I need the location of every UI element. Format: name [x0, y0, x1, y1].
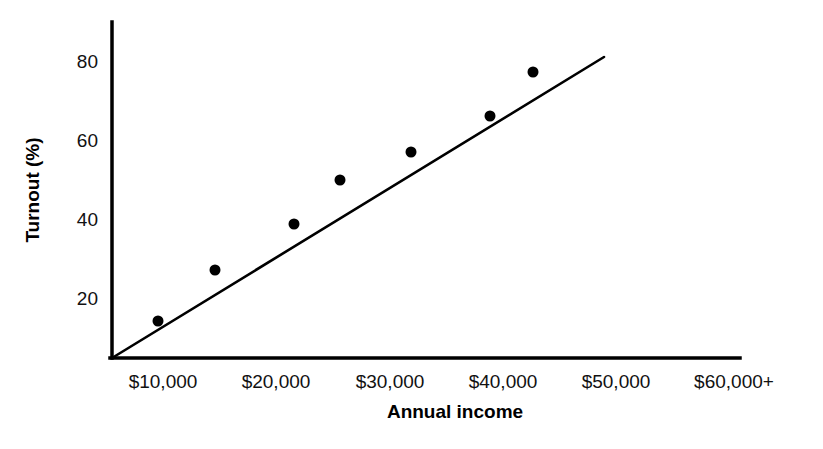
x-tick-label-50000: $50,000 — [582, 371, 651, 393]
data-point[interactable] — [528, 67, 539, 78]
data-point-group — [153, 67, 539, 327]
y-tick-label-40: 40 — [62, 209, 98, 231]
x-tick-label-60000plus: $60,000+ — [694, 371, 774, 393]
x-axis-title: Annual income — [387, 401, 523, 423]
data-point[interactable] — [485, 111, 496, 122]
data-point[interactable] — [335, 175, 346, 186]
data-point[interactable] — [210, 265, 221, 276]
data-point[interactable] — [289, 219, 300, 230]
x-tick-label-20000: $20,000 — [242, 371, 311, 393]
y-tick-label-60: 60 — [62, 130, 98, 152]
data-point[interactable] — [153, 316, 164, 327]
x-tick-label-40000: $40,000 — [469, 371, 538, 393]
trend-line — [112, 57, 604, 358]
y-tick-label-80: 80 — [62, 51, 98, 73]
y-tick-label-20: 20 — [62, 288, 98, 310]
y-axis-title: Turnout (%) — [22, 137, 44, 242]
chart-figure: Turnout (%) 80 60 40 20 $10,000 $20,000 … — [0, 0, 823, 449]
x-tick-label-10000: $10,000 — [129, 371, 198, 393]
x-tick-label-30000: $30,000 — [356, 371, 425, 393]
data-point[interactable] — [406, 147, 417, 158]
